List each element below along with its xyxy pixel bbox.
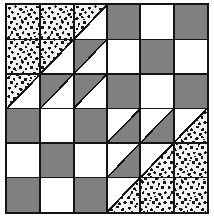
cell-r2c6-patch (174, 40, 207, 75)
cell-r4c1-patch (7, 109, 40, 144)
quilt-block-frame (5, 3, 209, 214)
cell-r5c2 (40, 143, 73, 178)
cell-r5c2-patch (40, 143, 73, 178)
cell-r1c5-patch (140, 5, 173, 40)
cell-r6c5-patch (140, 178, 173, 213)
cell-r2c4 (107, 40, 140, 75)
cell-r1c4 (107, 5, 140, 40)
cell-r4c3-patch (74, 109, 107, 144)
cell-r5c6-patch (174, 143, 207, 178)
cell-r4c2 (40, 109, 73, 144)
cell-r3c4 (107, 74, 140, 109)
cell-r6c3 (74, 178, 107, 213)
cell-r2c1-patch (7, 40, 40, 75)
cell-r1c5 (140, 5, 173, 40)
cell-r2c5 (140, 40, 173, 75)
cell-r3c2 (40, 74, 73, 109)
quilt-block-canvas (0, 0, 214, 220)
cell-r3c5 (140, 74, 173, 109)
cell-r6c2-patch (40, 178, 73, 213)
cell-r4c4 (107, 109, 140, 144)
cell-r6c1-patch (7, 178, 40, 213)
cell-r6c6-patch (174, 178, 207, 213)
cell-r4c2-patch (40, 109, 73, 144)
cell-r3c4-patch (107, 74, 140, 109)
cell-r5c3-patch (74, 143, 107, 178)
cell-r4c5 (140, 109, 173, 144)
cell-r2c6 (174, 40, 207, 75)
cell-r4c1 (7, 109, 40, 144)
cell-r6c1 (7, 178, 40, 213)
quilt-grid (7, 5, 207, 212)
cell-r1c2 (40, 5, 73, 40)
cell-r6c6 (174, 178, 207, 213)
cell-r6c2 (40, 178, 73, 213)
cell-r6c3-patch (74, 178, 107, 213)
cell-r6c5 (140, 178, 173, 213)
cell-r3c6-patch (174, 74, 207, 109)
cell-r1c4-patch (107, 5, 140, 40)
cell-r1c2-patch (40, 5, 73, 40)
cell-r5c1 (7, 143, 40, 178)
cell-r5c1-patch (7, 143, 40, 178)
cell-r2c1 (7, 40, 40, 75)
cell-r5c3 (74, 143, 107, 178)
cell-r2c3 (74, 40, 107, 75)
cell-r1c6 (174, 5, 207, 40)
cell-r5c6 (174, 143, 207, 178)
cell-r1c1-patch (7, 5, 40, 40)
cell-r2c4-patch (107, 40, 140, 75)
cell-r3c5-patch (140, 74, 173, 109)
cell-r1c6-patch (174, 5, 207, 40)
cell-r4c3 (74, 109, 107, 144)
cell-r3c3 (74, 74, 107, 109)
cell-r1c1 (7, 5, 40, 40)
cell-r3c6 (174, 74, 207, 109)
cell-r5c4 (107, 143, 140, 178)
cell-r2c5-patch (140, 40, 173, 75)
